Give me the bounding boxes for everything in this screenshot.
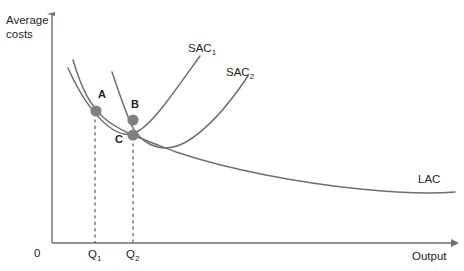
curve-label-sac2: SAC2: [226, 66, 254, 82]
y-axis-title: Average costs: [6, 14, 64, 41]
x-tick-q2-text: Q: [126, 248, 135, 260]
point-c: [127, 129, 138, 140]
origin-label: 0: [34, 247, 40, 261]
x-tick-q2: Q2: [126, 248, 139, 264]
x-axis-title: Output: [412, 250, 447, 264]
curve-label-sac2-text: SAC: [226, 66, 250, 78]
point-label-b: B: [131, 98, 139, 111]
x-tick-q2-sub: 2: [135, 254, 139, 263]
y-axis-title-line2: costs: [6, 28, 64, 42]
curve-label-sac1: SAC1: [188, 42, 216, 58]
average-cost-diagram: Average costs Output 0 Q1 Q2 SAC1 SAC2 L…: [0, 0, 464, 271]
x-tick-q1: Q1: [88, 248, 101, 264]
diagram-canvas: [0, 0, 464, 271]
point-a: [90, 105, 101, 116]
point-b: [127, 114, 138, 125]
point-label-c: C: [115, 133, 123, 146]
curve-label-sac1-sub: 1: [212, 48, 216, 57]
curve-lac: [73, 60, 455, 193]
x-tick-q1-sub: 1: [97, 254, 101, 263]
curve-label-sac1-text: SAC: [188, 42, 212, 54]
point-label-a: A: [98, 88, 106, 101]
curve-label-lac: LAC: [418, 173, 440, 187]
curve-label-sac2-sub: 2: [250, 72, 254, 81]
x-tick-q1-text: Q: [88, 248, 97, 260]
y-axis-title-line1: Average: [6, 14, 64, 28]
